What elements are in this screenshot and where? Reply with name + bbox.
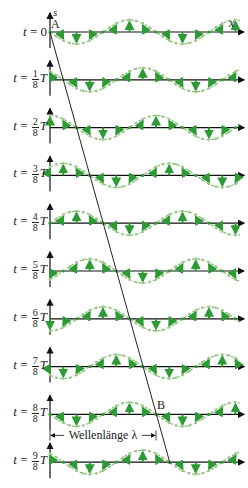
- particle-dot: [181, 425, 184, 428]
- t-symbol: t: [13, 357, 17, 372]
- particle-dot: [161, 329, 164, 332]
- t-symbol: t: [13, 453, 17, 468]
- particle-dot: [95, 361, 98, 364]
- particle-dot: [161, 456, 164, 459]
- particle: [62, 269, 65, 272]
- particle-dot: [168, 162, 171, 165]
- displacement-arrow: [113, 223, 117, 229]
- particle-dot: [55, 35, 58, 38]
- particle-dot: [175, 265, 178, 268]
- t-symbol: t: [13, 405, 17, 420]
- displacement-arrow: [77, 367, 81, 373]
- particle-dot: [115, 186, 118, 189]
- displacement-arrow: [73, 265, 77, 271]
- particle-dot: [188, 472, 191, 475]
- displacement-arrow: [60, 414, 64, 420]
- particle-dot: [108, 409, 111, 412]
- particle-dot: [55, 115, 58, 118]
- particle-dot: [82, 170, 85, 173]
- displacement-arrow: [205, 175, 209, 181]
- particle-dot: [82, 131, 85, 134]
- particle-dot: [95, 259, 98, 262]
- particle-dot: [62, 377, 65, 380]
- particle-dot: [49, 329, 52, 332]
- time-label-0: t = 0: [23, 24, 47, 40]
- particle-dot: [102, 261, 105, 264]
- particle-dot: [108, 185, 111, 188]
- displacement-arrow: [143, 26, 147, 32]
- particle-dot: [228, 74, 231, 77]
- particle-dot: [135, 402, 138, 405]
- time-label-4: t = 48T: [13, 212, 47, 233]
- displacement-arrow: [222, 128, 226, 134]
- particle-dot: [155, 166, 158, 169]
- particle-dot: [221, 309, 224, 312]
- particle-dot: [122, 313, 125, 316]
- particle-dot: [141, 66, 144, 69]
- particle-dot: [161, 217, 164, 220]
- particle-dot: [175, 42, 178, 45]
- time-label-5: t = 58T: [13, 260, 47, 281]
- particle-dot: [102, 182, 105, 185]
- particle-dot: [221, 230, 224, 233]
- particle: [62, 461, 65, 464]
- particle-dot: [221, 22, 224, 25]
- particle-dot: [75, 166, 78, 169]
- particle-dot: [234, 278, 237, 281]
- displacement-arrow: [99, 175, 103, 181]
- particle-dot: [228, 185, 231, 188]
- displacement-arrow: [192, 312, 196, 318]
- particle-dot: [69, 376, 72, 379]
- particle: [194, 174, 197, 177]
- particle-dot: [122, 74, 125, 77]
- particle: [207, 30, 210, 33]
- particle-dot: [95, 179, 98, 182]
- displacement-arrow: [63, 319, 67, 325]
- particle-dot: [82, 472, 85, 475]
- particle-dot: [88, 309, 91, 312]
- displacement-arrow: [232, 456, 236, 462]
- displacement-arrow: [90, 32, 94, 38]
- particle-dot: [128, 401, 131, 404]
- particle-dot: [62, 213, 65, 216]
- particle: [154, 222, 157, 225]
- particle-dot: [108, 465, 111, 468]
- particle-dot: [115, 309, 118, 312]
- particle-dot: [201, 418, 204, 421]
- particle-dot: [82, 313, 85, 316]
- particle-dot: [148, 170, 151, 173]
- particle-dot: [135, 322, 138, 325]
- particle-dot: [95, 137, 98, 140]
- particle-dot: [181, 210, 184, 213]
- particle: [154, 30, 157, 33]
- particle-dot: [208, 469, 211, 472]
- particle-dot: [168, 421, 171, 424]
- particle-dot: [194, 309, 197, 312]
- displacement-arrow: [103, 265, 107, 271]
- particle-dot: [148, 370, 151, 373]
- particle-dot: [115, 22, 118, 25]
- particle-dot: [175, 322, 178, 325]
- displacement-arrow: [86, 312, 90, 318]
- particle-dot: [188, 313, 191, 316]
- particle-dot: [188, 211, 191, 214]
- particle-dot: [214, 306, 217, 309]
- displacement-arrow: [139, 121, 143, 127]
- particle: [128, 126, 131, 129]
- particle-dot: [88, 421, 91, 424]
- particle-dot: [201, 361, 204, 364]
- displacement-arrow: [73, 462, 77, 468]
- particle-dot: [115, 135, 118, 138]
- particle-dot: [128, 452, 131, 455]
- particle-dot: [82, 259, 85, 262]
- particle-dot: [122, 233, 125, 236]
- particle-dot: [181, 261, 184, 264]
- fraction: 58: [32, 260, 39, 281]
- particle-dot: [194, 39, 197, 42]
- particle-dot: [108, 226, 111, 229]
- particle-dot: [115, 405, 118, 408]
- displacement-arrow: [209, 265, 213, 271]
- particle: [141, 174, 144, 177]
- particle-dot: [161, 115, 164, 118]
- displacement-arrow: [156, 456, 160, 462]
